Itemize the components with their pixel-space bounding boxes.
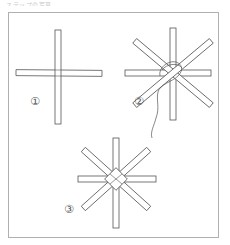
- step-3-label: ③: [64, 204, 74, 215]
- step-illustrations: [0, 0, 230, 245]
- step-2-label: ②: [134, 96, 144, 107]
- step-3-finished-star: [78, 138, 156, 228]
- step-1-cross: [16, 30, 102, 124]
- step-1-label: ①: [30, 96, 40, 107]
- step-2-star-tying: [125, 28, 213, 138]
